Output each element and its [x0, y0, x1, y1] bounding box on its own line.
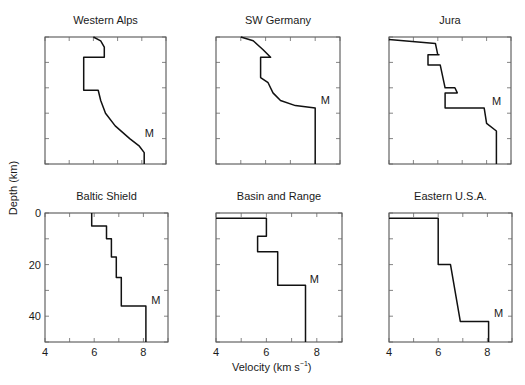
x-tick-label: 6 [263, 346, 269, 358]
x-tick-label: 6 [91, 346, 97, 358]
velocity-profile-line [389, 40, 496, 165]
panel-title: SW Germany [245, 14, 312, 26]
moho-label: M [145, 127, 154, 139]
x-tick-label: 8 [140, 346, 146, 358]
x-tick-label: 6 [435, 346, 441, 358]
y-tick-label: 20 [29, 259, 41, 271]
velocity-profile-line [216, 218, 306, 342]
panel-sw-germany: SW GermanyM [216, 14, 340, 164]
panel-title: Jura [439, 14, 461, 26]
x-tick-label: 4 [213, 346, 219, 358]
velocity-profile-line [389, 218, 489, 342]
y-axis-label: Depth (km) [7, 153, 19, 223]
moho-label: M [494, 307, 503, 319]
velocity-profile-line [241, 37, 315, 164]
panel-basin-and-range: Basin and Range468M [213, 190, 342, 358]
velocity-profile-line [84, 37, 145, 164]
x-tick-label: 8 [314, 346, 320, 358]
x-axis-label: Velocity (km s−1) [232, 360, 312, 373]
panel-title: Western Alps [73, 14, 138, 26]
moho-label: M [492, 95, 501, 107]
moho-label: M [151, 294, 160, 306]
seismic-velocity-figure: Western AlpsMSW GermanyMJuraMBaltic Shie… [0, 0, 525, 385]
plot-frame [389, 213, 512, 342]
panel-title: Basin and Range [237, 190, 321, 202]
x-tick-label: 8 [484, 346, 490, 358]
y-tick-label: 40 [29, 310, 41, 322]
panel-title: Baltic Shield [76, 190, 137, 202]
panel-jura: JuraM [389, 14, 511, 164]
moho-label: M [310, 273, 319, 285]
velocity-profile-line [92, 213, 146, 342]
panel-title: Eastern U.S.A. [414, 190, 487, 202]
panel-eastern-u-s-a: Eastern U.S.A.468M [386, 190, 512, 358]
panel-baltic-shield: Baltic Shield02040468M [29, 190, 168, 358]
plot-frame [216, 213, 342, 342]
y-tick-label: 0 [35, 207, 41, 219]
x-tick-label: 4 [42, 346, 48, 358]
plot-frame [45, 37, 166, 164]
moho-label: M [321, 94, 330, 106]
panel-western-alps: Western AlpsM [45, 14, 166, 164]
x-tick-label: 4 [386, 346, 392, 358]
